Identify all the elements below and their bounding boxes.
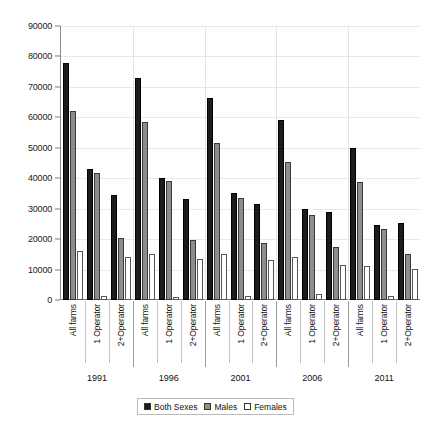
bar xyxy=(214,143,220,300)
bar-cluster xyxy=(229,26,253,300)
y-axis-tick-label: 50000 xyxy=(28,143,52,153)
x-axis-category: 2+Operator xyxy=(181,301,205,367)
bar xyxy=(292,257,298,300)
bar xyxy=(142,122,148,300)
legend-item[interactable]: Males xyxy=(204,402,237,412)
bar xyxy=(364,266,370,300)
x-axis: All farms1 Operator2+Operator1991All far… xyxy=(61,301,420,395)
bar xyxy=(309,215,315,300)
x-axis-category-label: 2+Operator xyxy=(403,304,413,346)
legend-item[interactable]: Females xyxy=(244,402,287,412)
x-axis-category-label: All farms xyxy=(355,304,365,336)
bar xyxy=(197,259,203,300)
legend-swatch-icon xyxy=(244,403,251,410)
bar xyxy=(326,212,332,300)
bar xyxy=(166,181,172,300)
bar xyxy=(398,223,404,300)
x-axis-group-2006: All farms1 Operator2+Operator2006 xyxy=(276,301,348,395)
bar-cluster xyxy=(348,26,372,300)
x-axis-category: All farms xyxy=(61,301,85,367)
bar-cluster xyxy=(181,26,205,300)
bar-group-1991 xyxy=(61,26,133,300)
bar xyxy=(173,297,179,300)
bar xyxy=(101,296,107,300)
chart-figure: 9000080000700006000050000400003000020000… xyxy=(0,0,427,435)
legend-swatch-icon xyxy=(204,403,211,410)
x-axis-category: All farms xyxy=(276,301,300,367)
x-axis-category-labels: All farms1 Operator2+Operator xyxy=(348,301,420,367)
bar xyxy=(316,294,322,300)
x-axis-category-label: 1 Operator xyxy=(164,304,174,344)
legend-item-label: Both Sexes xyxy=(154,402,197,412)
x-axis-group-2001: All farms1 Operator2+Operator2001 xyxy=(205,301,277,395)
x-axis-category: 2+Operator xyxy=(324,301,348,367)
x-axis-category: 1 Operator xyxy=(229,301,253,367)
x-axis-category-label: 2+Operator xyxy=(188,304,198,346)
y-axis-tick-label: 40000 xyxy=(28,173,52,183)
bar xyxy=(94,173,100,300)
x-axis-category-label: All farms xyxy=(212,304,222,336)
bar xyxy=(357,182,363,300)
y-axis-tick-label: 80000 xyxy=(28,51,52,61)
bar xyxy=(183,199,189,300)
x-axis-group-label: 1996 xyxy=(133,367,205,389)
x-axis-category: 2+Operator xyxy=(396,301,420,367)
bar-group-1996 xyxy=(133,26,205,300)
x-axis-category: 2+Operator xyxy=(252,301,276,367)
x-axis-group-label: 2011 xyxy=(348,367,420,389)
x-axis-category-label: 1 Operator xyxy=(379,304,389,344)
x-axis-category-label: All farms xyxy=(140,304,150,336)
bar-cluster xyxy=(372,26,396,300)
bar xyxy=(381,229,387,300)
y-axis-tick-label: 90000 xyxy=(28,21,52,31)
x-axis-category-labels: All farms1 Operator2+Operator xyxy=(61,301,133,367)
bar xyxy=(77,251,83,300)
x-axis-category-label: 2+Operator xyxy=(116,304,126,346)
bar xyxy=(231,193,237,300)
x-axis-category-label: All farms xyxy=(68,304,78,336)
bar-group-2001 xyxy=(205,26,277,300)
x-axis-category-labels: All farms1 Operator2+Operator xyxy=(133,301,205,367)
bar-cluster xyxy=(85,26,109,300)
x-axis-category: 2+Operator xyxy=(109,301,133,367)
bar xyxy=(149,254,155,300)
bar xyxy=(125,257,131,300)
bar xyxy=(238,198,244,300)
bar xyxy=(159,178,165,300)
bar xyxy=(374,225,380,300)
x-axis-category-labels: All farms1 Operator2+Operator xyxy=(276,301,348,367)
x-axis-group-label: 1991 xyxy=(61,367,133,389)
y-axis-tick-label: 10000 xyxy=(28,265,52,275)
x-axis-category-label: 1 Operator xyxy=(307,304,317,344)
bar xyxy=(135,78,141,300)
x-axis-category: 1 Operator xyxy=(157,301,181,367)
bar xyxy=(221,254,227,300)
bar xyxy=(268,260,274,300)
bar xyxy=(63,63,69,300)
bar-cluster xyxy=(157,26,181,300)
y-axis-tick-label: 60000 xyxy=(28,112,52,122)
bar xyxy=(70,111,76,300)
legend-item[interactable]: Both Sexes xyxy=(144,402,197,412)
bar-cluster xyxy=(396,26,420,300)
bar-cluster xyxy=(61,26,85,300)
bar xyxy=(350,148,356,300)
x-axis-category-label: 1 Operator xyxy=(236,304,246,344)
y-axis-tick-label: 70000 xyxy=(28,82,52,92)
bar xyxy=(412,269,418,300)
bar xyxy=(333,247,339,300)
x-axis-category: 1 Operator xyxy=(372,301,396,367)
x-axis-group-1996: All farms1 Operator2+Operator1996 xyxy=(133,301,205,395)
y-axis-tick-label: 20000 xyxy=(28,234,52,244)
bar xyxy=(254,204,260,301)
x-axis-category-label: 2+Operator xyxy=(331,304,341,346)
bar-cluster xyxy=(300,26,324,300)
bar xyxy=(278,120,284,300)
bar xyxy=(190,240,196,300)
x-axis-category: All farms xyxy=(133,301,157,367)
x-axis-category: 1 Operator xyxy=(300,301,324,367)
x-axis-category-label: 2+Operator xyxy=(259,304,269,346)
bar-cluster xyxy=(133,26,157,300)
bar xyxy=(285,162,291,300)
bar xyxy=(111,195,117,300)
